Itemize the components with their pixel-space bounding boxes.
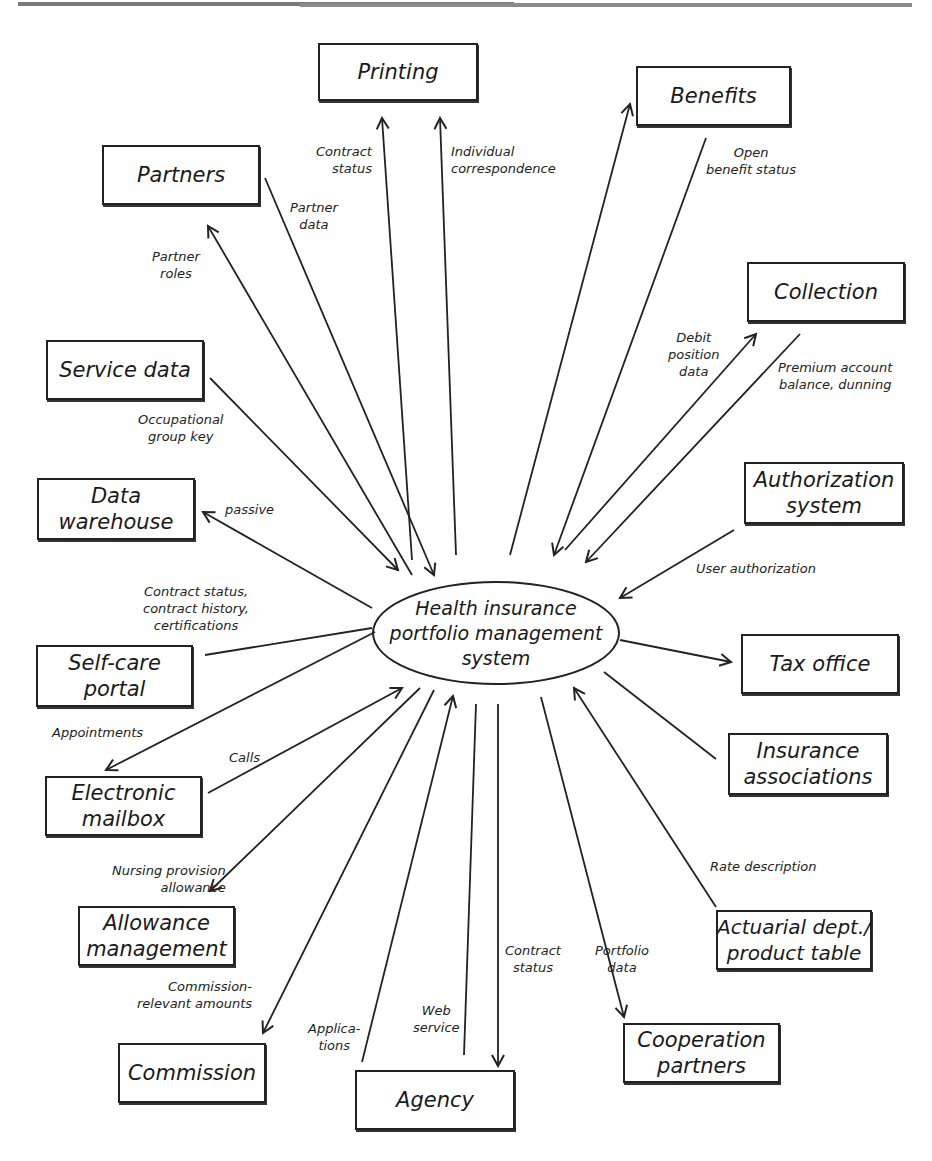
- flow-label-nursing-provision-allowance: Nursing provision allowance: [112, 862, 226, 896]
- system-box-cooperation-partners[interactable]: Cooperation partners: [623, 1023, 780, 1083]
- flow-label-partner-data: Partner data: [290, 199, 338, 233]
- system-box-agency[interactable]: Agency: [355, 1070, 515, 1130]
- flow-label-portfolio-data: Portfolio data: [595, 942, 649, 976]
- flow-label-occupational-group-key: Occupational group key: [138, 411, 223, 445]
- system-box-tax-office[interactable]: Tax office: [741, 634, 899, 694]
- flow-label-open-benefit-status: Open benefit status: [706, 144, 796, 178]
- system-box-partners[interactable]: Partners: [102, 145, 260, 205]
- flow-label-passive: passive: [225, 501, 274, 518]
- flow-label-web-service: Web service: [413, 1002, 460, 1036]
- flow-label-debit-position-data: Debit position data: [668, 329, 720, 380]
- system-box-commission[interactable]: Commission: [118, 1043, 266, 1103]
- system-box-authorization-system[interactable]: Authorization system: [744, 462, 904, 524]
- flow-label-self-care-contract-status: Contract status, contract history, certi…: [143, 583, 249, 634]
- flow-label-commission-relevant-amounts: Commission- relevant amounts: [137, 978, 252, 1012]
- flow-label-appointments: Appointments: [52, 724, 143, 741]
- flow-label-calls: Calls: [229, 749, 260, 766]
- system-box-insurance-associations[interactable]: Insurance associations: [728, 733, 888, 795]
- flow-label-rate-description: Rate description: [710, 858, 817, 875]
- flow-label-applications: Applica- tions: [308, 1020, 360, 1054]
- system-box-collection[interactable]: Collection: [747, 262, 905, 322]
- system-box-allowance-management[interactable]: Allowance management: [78, 906, 235, 966]
- central-system-node[interactable]: Health insurance portfolio management sy…: [372, 581, 620, 685]
- system-box-printing[interactable]: Printing: [318, 43, 478, 101]
- flow-label-individual-correspondence: Individual correspondence: [451, 143, 556, 177]
- system-box-actuarial-dept[interactable]: Actuarial dept./ product table: [716, 910, 872, 970]
- system-box-benefits[interactable]: Benefits: [636, 66, 791, 126]
- flow-label-user-authorization: User authorization: [696, 560, 816, 577]
- flow-label-premium-account-balance: Premium account balance, dunning: [778, 359, 892, 393]
- system-box-service-data[interactable]: Service data: [46, 340, 204, 400]
- flow-label-agency-contract-status: Contract status: [505, 942, 561, 976]
- flow-label-partner-roles: Partner roles: [152, 248, 200, 282]
- system-box-data-warehouse[interactable]: Data warehouse: [37, 478, 195, 540]
- system-box-self-care-portal[interactable]: Self-care portal: [36, 645, 193, 707]
- flow-label-printing-contract-status: Contract status: [316, 143, 372, 177]
- system-box-electronic-mailbox[interactable]: Electronic mailbox: [45, 776, 202, 836]
